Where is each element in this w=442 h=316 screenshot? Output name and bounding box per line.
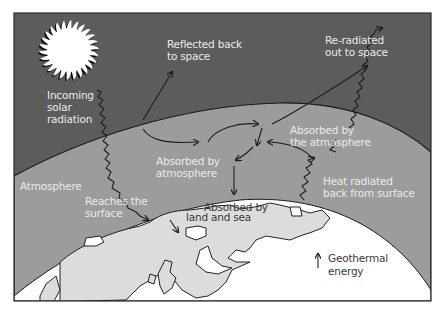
energy-balance-diagram: Incoming solar radiation Reflected back … [0,0,442,316]
label-reradiated: Re-radiated out to space [325,34,388,58]
label-absorbed-atmosphere-center: Absorbed by atmosphere [156,155,223,179]
label-atmosphere: Atmosphere [20,180,82,192]
